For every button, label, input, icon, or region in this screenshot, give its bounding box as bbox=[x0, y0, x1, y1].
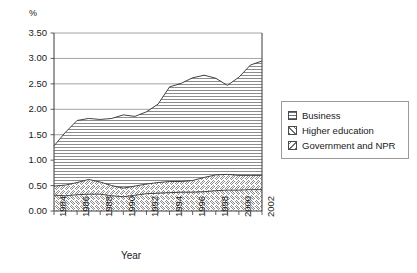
x-tick-label: 1984 bbox=[58, 196, 68, 217]
y-tick-label: 3.00 bbox=[29, 53, 48, 63]
y-tick-label: 1.50 bbox=[29, 130, 48, 140]
forward-diagonal-swatch bbox=[288, 126, 297, 135]
y-tick-label: 2.00 bbox=[29, 104, 48, 114]
x-tick-label: 2002 bbox=[266, 196, 276, 217]
x-tick-label: 1994 bbox=[174, 196, 184, 217]
back-diagonal-swatch bbox=[288, 141, 297, 150]
x-tick-label: 1992 bbox=[150, 196, 160, 217]
legend-label: Business bbox=[302, 110, 341, 121]
legend-label: Higher education bbox=[302, 125, 374, 136]
y-tick-label: 0.00 bbox=[29, 206, 48, 216]
x-tick-label: 2000 bbox=[243, 196, 253, 217]
horizontal-lines-swatch bbox=[288, 111, 297, 120]
y-tick-label: 0.50 bbox=[29, 181, 48, 191]
y-axis-tick-labels: 0.000.501.001.502.002.503.003.50 bbox=[0, 0, 50, 273]
x-tick-label: 1998 bbox=[220, 196, 230, 217]
legend-item-government-npr[interactable]: Government and NPR bbox=[288, 138, 403, 152]
x-tick-label: 1986 bbox=[81, 196, 91, 217]
chart-legend: Business Higher education Government and… bbox=[281, 101, 409, 159]
x-tick-label: 1988 bbox=[104, 196, 114, 217]
y-tick-label: 1.00 bbox=[29, 155, 48, 165]
legend-item-business[interactable]: Business bbox=[288, 108, 403, 122]
x-axis-title: Year bbox=[0, 250, 262, 261]
y-tick-label: 3.50 bbox=[29, 28, 48, 38]
x-tick-label: 1990 bbox=[127, 196, 137, 217]
chart-figure: % 0.000.501.001.502.002.503.003.50 Year bbox=[0, 0, 417, 273]
y-tick-label: 2.50 bbox=[29, 79, 48, 89]
legend-label: Government and NPR bbox=[302, 140, 395, 151]
x-tick-label: 1996 bbox=[197, 196, 207, 217]
legend-item-higher-education[interactable]: Higher education bbox=[288, 123, 403, 137]
